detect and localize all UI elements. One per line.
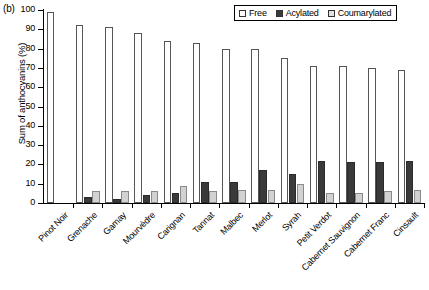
bar-group bbox=[105, 10, 129, 203]
chart-figure: (b) Sum of anthocyanins (%) 010203040506… bbox=[0, 0, 429, 290]
x-tick-mark bbox=[102, 203, 103, 208]
y-tick-mark bbox=[38, 29, 43, 30]
bar-free bbox=[134, 33, 142, 203]
legend-item-coumarylated: Coumarylated bbox=[328, 8, 392, 18]
bar-free bbox=[251, 49, 259, 203]
y-tick-mark bbox=[38, 164, 43, 165]
bar-acyl bbox=[143, 195, 151, 203]
bar-acyl bbox=[347, 162, 355, 203]
y-tick-mark bbox=[38, 184, 43, 185]
x-tick-mark bbox=[190, 203, 191, 208]
bar-free bbox=[310, 66, 318, 203]
y-tick-label: 50 bbox=[25, 101, 35, 111]
bar-free bbox=[47, 12, 55, 203]
x-tick-mark bbox=[161, 203, 162, 208]
bar-group bbox=[368, 10, 392, 203]
y-tick-mark bbox=[38, 10, 43, 11]
x-axis-label: Malbec bbox=[218, 210, 245, 237]
x-axis-label: Tannat bbox=[191, 210, 216, 235]
bar-acyl bbox=[318, 161, 326, 203]
x-axis-label: Pinot Noir bbox=[36, 210, 70, 244]
bar-free bbox=[398, 70, 406, 203]
x-axis-label: Merlot bbox=[250, 210, 274, 234]
bar-acyl bbox=[201, 182, 209, 203]
legend-swatch-coumarylated-icon bbox=[328, 10, 335, 17]
bar-acyl bbox=[259, 170, 267, 203]
y-tick-label: 90 bbox=[25, 23, 35, 33]
y-tick-mark bbox=[38, 87, 43, 88]
chart-legend: Free Acylated Coumarylated bbox=[234, 5, 397, 21]
y-tick-label: 10 bbox=[25, 178, 35, 188]
bar-group bbox=[339, 10, 363, 203]
bar-coum bbox=[297, 184, 305, 203]
y-tick-label: 30 bbox=[25, 139, 35, 149]
y-tick-label: 80 bbox=[25, 43, 35, 53]
bar-free bbox=[222, 49, 230, 203]
bar-coum bbox=[268, 190, 276, 204]
legend-label-acylated: Acylated bbox=[286, 8, 319, 18]
bar-coum bbox=[238, 190, 246, 204]
plot-area bbox=[44, 10, 424, 203]
legend-label-coumarylated: Coumarylated bbox=[338, 8, 392, 18]
bar-coum bbox=[355, 193, 363, 203]
bar-group bbox=[251, 10, 275, 203]
x-tick-mark bbox=[395, 203, 396, 208]
y-tick-mark bbox=[38, 203, 43, 204]
x-tick-mark bbox=[132, 203, 133, 208]
x-axis-label: Gamay bbox=[101, 210, 128, 237]
bar-coum bbox=[326, 193, 334, 203]
x-axis-label: Carignan bbox=[155, 210, 187, 242]
bar-acyl bbox=[376, 162, 384, 203]
legend-item-acylated: Acylated bbox=[276, 8, 319, 18]
x-tick-mark bbox=[219, 203, 220, 208]
bar-group bbox=[398, 10, 422, 203]
legend-swatch-acylated-icon bbox=[276, 10, 283, 17]
y-tick-mark bbox=[38, 145, 43, 146]
bar-group bbox=[193, 10, 217, 203]
x-tick-mark bbox=[73, 203, 74, 208]
bar-acyl bbox=[84, 197, 92, 203]
bar-coum bbox=[209, 191, 217, 203]
x-tick-mark bbox=[366, 203, 367, 208]
bar-coum bbox=[384, 191, 392, 203]
bar-group bbox=[281, 10, 305, 203]
bar-acyl bbox=[230, 182, 238, 203]
panel-label: (b) bbox=[3, 3, 15, 14]
bar-free bbox=[368, 68, 376, 203]
bar-acyl bbox=[289, 174, 297, 203]
y-tick-label: 60 bbox=[25, 81, 35, 91]
legend-item-free: Free bbox=[239, 8, 267, 18]
x-axis-line bbox=[43, 203, 424, 204]
y-tick-mark bbox=[38, 126, 43, 127]
legend-label-free: Free bbox=[249, 8, 267, 18]
bar-acyl bbox=[406, 161, 414, 203]
bar-free bbox=[339, 66, 347, 203]
bar-coum bbox=[121, 191, 129, 203]
bar-coum bbox=[151, 191, 159, 203]
x-tick-mark bbox=[249, 203, 250, 208]
bar-free bbox=[105, 27, 113, 203]
x-tick-mark bbox=[307, 203, 308, 208]
bar-group bbox=[76, 10, 100, 203]
x-axis-label: Cinsault bbox=[392, 210, 421, 239]
x-axis-label: Syrah bbox=[281, 210, 304, 233]
x-tick-mark bbox=[278, 203, 279, 208]
x-tick-mark bbox=[424, 203, 425, 208]
bar-acyl bbox=[172, 193, 180, 203]
bar-group bbox=[47, 10, 71, 203]
bar-group bbox=[164, 10, 188, 203]
x-axis-label: Grenache bbox=[65, 210, 99, 244]
x-tick-mark bbox=[336, 203, 337, 208]
bar-group bbox=[222, 10, 246, 203]
bar-group bbox=[134, 10, 158, 203]
legend-swatch-free-icon bbox=[239, 10, 246, 17]
bar-coum bbox=[414, 190, 422, 204]
bar-free bbox=[193, 43, 201, 203]
y-tick-mark bbox=[38, 107, 43, 108]
y-tick-label: 70 bbox=[25, 62, 35, 72]
bar-free bbox=[281, 58, 289, 203]
y-tick-label: 40 bbox=[25, 120, 35, 130]
y-tick-mark bbox=[38, 68, 43, 69]
bar-group bbox=[310, 10, 334, 203]
bar-free bbox=[76, 25, 84, 203]
